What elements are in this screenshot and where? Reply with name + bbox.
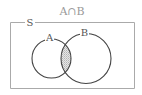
universe-label: S bbox=[27, 17, 34, 28]
venn-diagram: A∩B S A B bbox=[0, 0, 142, 95]
universe-frame bbox=[11, 23, 135, 89]
set-a-label: A bbox=[45, 32, 54, 43]
set-b-label: B bbox=[81, 27, 88, 38]
diagram-title: A∩B bbox=[58, 5, 84, 18]
